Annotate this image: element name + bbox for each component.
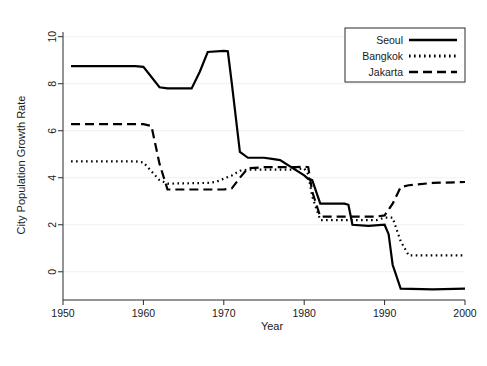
- x-axis-title: Year: [261, 320, 284, 332]
- x-tick-label-1960: 1960: [132, 307, 156, 319]
- y-tick-label-2: 2: [46, 222, 58, 228]
- y-tick-label-4: 4: [46, 175, 58, 181]
- x-tick-label-1950: 1950: [51, 307, 75, 319]
- x-tick-label-1970: 1970: [212, 307, 236, 319]
- y-tick-label-6: 6: [46, 128, 58, 134]
- x-tick-label-1980: 1980: [293, 307, 317, 319]
- x-tick-label-1990: 1990: [373, 307, 397, 319]
- legend-label-jakarta: Jakarta: [369, 66, 404, 78]
- y-tick-label-10: 10: [46, 31, 58, 43]
- y-tick-label-8: 8: [46, 81, 58, 87]
- y-axis-title: City Population Growth Rate: [15, 96, 27, 235]
- legend-label-bangkok: Bangkok: [362, 50, 404, 62]
- legend-label-seoul: Seoul: [376, 34, 403, 46]
- chart-legend[interactable]: SeoulBangkokJakarta: [345, 28, 465, 82]
- x-tick-label-2000: 2000: [453, 307, 477, 319]
- line-chart: 0246810195019601970198019902000 City Pop…: [0, 0, 487, 366]
- y-tick-label-0: 0: [46, 269, 58, 275]
- chart-figure: 0246810195019601970198019902000 City Pop…: [0, 0, 487, 366]
